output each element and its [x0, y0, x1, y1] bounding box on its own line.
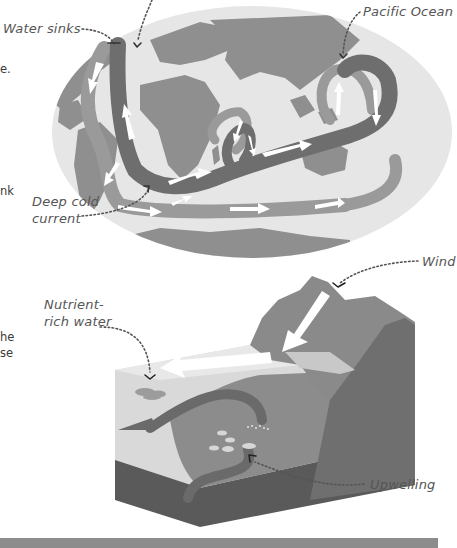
- label-upwelling: Upwelling: [370, 476, 436, 493]
- label-nutrient-rich-water-1: Nutrient-: [44, 296, 104, 313]
- label-nutrient-rich-water-2: rich water: [44, 313, 112, 330]
- label-deep-cold-current-1: Deep cold: [32, 193, 99, 210]
- label-deep-cold-current-2: current: [32, 210, 81, 227]
- illustration: [0, 0, 457, 548]
- page-bottom-bar: [0, 538, 438, 548]
- label-wind: Wind: [422, 253, 456, 270]
- label-water-sinks: Water sinks: [3, 20, 81, 37]
- world-globe-map: [40, 6, 452, 270]
- label-pacific-ocean: Pacific Ocean: [363, 3, 453, 20]
